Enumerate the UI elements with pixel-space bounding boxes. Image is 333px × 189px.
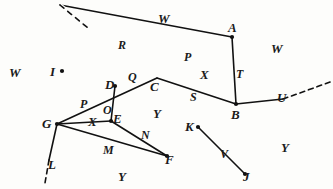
vertex-label-E: E bbox=[113, 112, 122, 125]
vertex-label-K: K bbox=[185, 120, 194, 133]
vertex-label-C: C bbox=[150, 80, 159, 93]
vertex-label-F: F bbox=[165, 153, 174, 166]
edge-label-P-left: P bbox=[80, 98, 87, 110]
region-label-Y-right: Y bbox=[281, 141, 289, 154]
edge-label-P-top: P bbox=[184, 51, 191, 63]
edge-label-V: V bbox=[220, 148, 228, 160]
vertex-label-J: J bbox=[243, 170, 250, 183]
line-dashed-ray-U bbox=[283, 81, 333, 99]
vertex-label-U: U bbox=[277, 91, 286, 104]
vertex-label-D: D bbox=[105, 78, 114, 91]
segments-layer bbox=[45, 5, 333, 183]
region-label-Y-mid: Y bbox=[153, 107, 161, 120]
region-label-W-topright: W bbox=[271, 42, 283, 55]
line-segment-X-left bbox=[57, 121, 111, 124]
vertex-label-A: A bbox=[228, 21, 237, 34]
vertex-label-I: I bbox=[50, 65, 55, 78]
line-segment-U bbox=[236, 99, 283, 104]
vertex-dot-G bbox=[55, 122, 59, 126]
region-label-X-right: X bbox=[200, 68, 209, 81]
vertex-dot-K bbox=[196, 125, 200, 129]
edge-label-T: T bbox=[236, 68, 243, 80]
edge-label-R: R bbox=[118, 39, 126, 51]
vertex-dot-I bbox=[60, 69, 64, 73]
edge-label-N: N bbox=[141, 129, 150, 141]
line-dashed-ray-R bbox=[60, 5, 232, 37]
geometry-figure: ABCDEFGIJKLURPTSQPONMVWWWXXYYY bbox=[0, 0, 333, 189]
region-label-W-topleft: W bbox=[9, 66, 21, 79]
region-label-W-topmid: W bbox=[158, 12, 170, 25]
vertex-label-B: B bbox=[231, 108, 240, 121]
region-label-Y-bottom: Y bbox=[118, 170, 126, 183]
vertex-dot-A bbox=[230, 35, 234, 39]
edge-label-O: O bbox=[103, 104, 112, 116]
edge-label-S: S bbox=[190, 91, 197, 103]
vertex-label-G: G bbox=[42, 117, 51, 130]
vertex-dot-B bbox=[234, 102, 238, 106]
line-segment-N bbox=[111, 121, 167, 156]
vertex-label-L: L bbox=[48, 158, 56, 171]
region-label-X-left: X bbox=[88, 115, 97, 128]
edge-label-Q: Q bbox=[128, 71, 137, 83]
edge-label-M: M bbox=[103, 144, 114, 156]
